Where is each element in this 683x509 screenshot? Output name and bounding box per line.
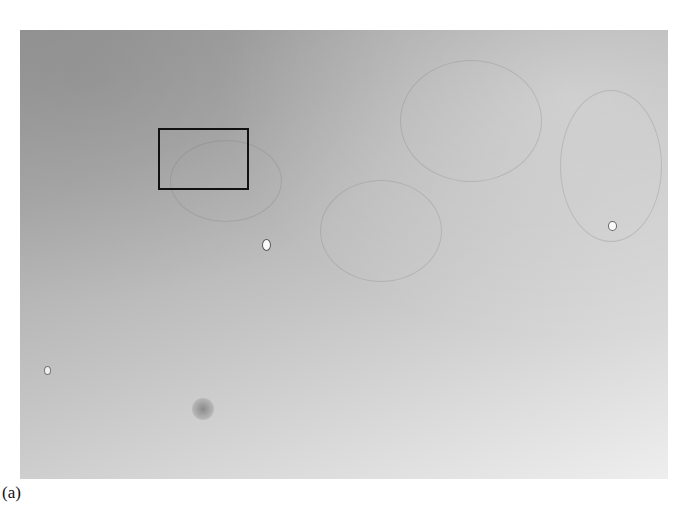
panel-label: (a) [2,483,21,503]
cell-outline [400,60,542,182]
dark-spot [192,398,214,420]
cell-outline [320,180,442,282]
bright-particle [262,239,271,251]
bright-particle [608,221,617,231]
cell-outline [560,90,662,242]
region-of-interest-box [158,128,249,190]
microscopy-image [20,30,668,479]
small-particle [44,366,51,375]
